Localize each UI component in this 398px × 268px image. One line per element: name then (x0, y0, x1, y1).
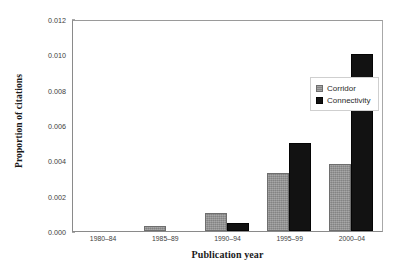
x-axis-tick-label: 1980–84 (72, 235, 134, 242)
bar-group (197, 21, 259, 231)
bar-connectivity (227, 223, 249, 231)
y-axis-tick-label: 0.010 (20, 51, 66, 60)
bar-corridor (144, 226, 166, 231)
legend-swatch-icon (316, 85, 323, 92)
bar-group (258, 21, 320, 231)
bar-chart-figure: Proportion of citations 0.0000.0020.0040… (0, 0, 398, 268)
bar-corridor (205, 213, 227, 231)
y-axis-tick-label: 0.012 (20, 16, 66, 25)
y-axis-tick-label: 0.008 (20, 86, 66, 95)
x-axis-tick-label: 1985–89 (134, 235, 196, 242)
x-axis-tick-labels: 1980–841985–891990–941995–992000–04 (72, 235, 383, 242)
y-axis-tick-labels: 0.0000.0020.0040.0060.0080.0100.012 (18, 0, 66, 268)
legend-item: Corridor (316, 82, 371, 94)
y-axis-tick-label: 0.006 (20, 122, 66, 131)
bar-corridor (329, 164, 351, 231)
bar-group (135, 21, 197, 231)
y-axis-tick-label: 0.002 (20, 192, 66, 201)
legend-label: Connectivity (327, 96, 371, 105)
legend-label: Corridor (327, 84, 356, 93)
bar-connectivity (289, 143, 311, 231)
x-axis-title: Publication year (72, 249, 383, 260)
y-axis-tick-label: 0.000 (20, 228, 66, 237)
x-axis-tick-label: 2000–04 (321, 235, 383, 242)
x-axis-tick-label: 1990–94 (196, 235, 258, 242)
y-axis-tick-label: 0.004 (20, 157, 66, 166)
bar-group (73, 21, 135, 231)
plot-area: CorridorConnectivity (72, 20, 383, 232)
bar-groups (73, 21, 382, 231)
chart-legend: CorridorConnectivity (310, 77, 379, 111)
bar-group (320, 21, 382, 231)
legend-swatch-icon (316, 97, 323, 104)
bar-corridor (267, 173, 289, 231)
legend-item: Connectivity (316, 94, 371, 106)
x-axis-tick-label: 1995–99 (259, 235, 321, 242)
